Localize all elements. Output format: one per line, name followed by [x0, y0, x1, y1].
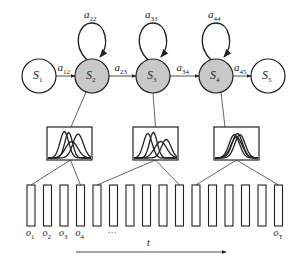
- hmm-diagram: o1o2o3o4oT…ta22a33a44a12a23a34a45S1S2S3S…: [0, 0, 299, 261]
- state-to-emission-link: [153, 93, 156, 127]
- emission-to-observation-link: [156, 160, 180, 185]
- transition-label-a45: a45: [234, 62, 247, 76]
- state-to-emission-link: [221, 92, 225, 127]
- state-label-S3-subscript: 3: [153, 76, 157, 84]
- transition-label-a45-subscript: 45: [240, 68, 247, 76]
- self-loop-arrow-S4: [202, 23, 229, 60]
- state-label-S4-subscript: 4: [216, 76, 220, 84]
- observation-label-4-subscript: 4: [81, 233, 85, 241]
- transition-label-a12-subscript: 12: [63, 68, 70, 76]
- observation-label-1: o1: [26, 228, 35, 241]
- observation-label-2: o2: [43, 228, 52, 241]
- observation-frame: [209, 185, 217, 226]
- self-loops: [78, 23, 229, 60]
- observation-frame: [93, 185, 101, 226]
- observation-ellipsis: …: [108, 226, 117, 235]
- time-axis-label: t: [147, 238, 150, 248]
- self-loop-arrow-S3: [139, 23, 166, 60]
- emission-to-observation-link: [196, 160, 237, 185]
- emission-distribution-S4: [214, 127, 259, 160]
- observation-label-T: oT: [274, 228, 283, 241]
- observation-frame: [60, 185, 68, 226]
- observation-frame: [27, 185, 35, 226]
- emission-distribution-S3: [133, 127, 178, 160]
- observation-frame: [225, 185, 233, 226]
- transition-label-a12: a12: [58, 62, 71, 76]
- transition-label-a23: a23: [115, 62, 128, 76]
- self-loop-label-a33: a33: [145, 9, 158, 23]
- state-label-S2: S2: [86, 69, 96, 84]
- observation-frame: [77, 185, 85, 226]
- self-loop-arrow-S2: [78, 23, 105, 60]
- emission-to-observation-link: [97, 160, 156, 185]
- observation-frame: [242, 185, 250, 226]
- emission-to-observation-link: [31, 160, 71, 185]
- observation-frame: [258, 185, 266, 226]
- observation-label-3: o3: [59, 228, 68, 241]
- observation-frame: [192, 185, 200, 226]
- state-label-S3: S3: [147, 69, 157, 84]
- observation-frame: [126, 185, 134, 226]
- self-loop-label-a44: a44: [208, 9, 221, 23]
- emission-box-frame: [214, 127, 259, 160]
- state-label-S5-subscript: 5: [268, 76, 272, 84]
- observation-frame: [44, 185, 52, 226]
- state-label-S2-subscript: 2: [92, 76, 96, 84]
- observation-frame: [159, 185, 167, 226]
- self-loop-label-a22-subscript: 22: [90, 15, 97, 23]
- observation-frame: [143, 185, 151, 226]
- emission-to-observation-link: [237, 160, 279, 185]
- transition-label-a34-subscript: 34: [182, 68, 189, 76]
- emission-distribution-S2: [47, 127, 92, 160]
- observation-label-3-subscript: 3: [64, 233, 68, 241]
- emission-boxes: [47, 127, 259, 160]
- state-to-emission-link: [71, 92, 86, 127]
- state-label-S1: S1: [33, 69, 43, 84]
- emission-to-observation-link: [71, 160, 81, 185]
- self-loop-label-a44-subscript: 44: [214, 15, 221, 23]
- transition-label-a23-subscript: 23: [120, 68, 127, 76]
- observation-label-4: o4: [76, 228, 85, 241]
- state-label-S1-subscript: 1: [39, 76, 43, 84]
- observation-label-2-subscript: 2: [48, 233, 52, 241]
- state-label-S5: S5: [262, 69, 272, 84]
- observation-frame: [176, 185, 184, 226]
- self-loop-label-a33-subscript: 33: [151, 15, 158, 23]
- observation-frame: [110, 185, 118, 226]
- hmm-diagram-canvas: [0, 0, 299, 261]
- observation-frame: [275, 185, 283, 226]
- self-loop-label-a22: a22: [84, 9, 97, 23]
- state-label-S4: S4: [210, 69, 220, 84]
- observation-label-1-subscript: 1: [31, 233, 35, 241]
- observation-label-T-subscript: T: [279, 233, 283, 241]
- observation-sequence: [27, 185, 283, 226]
- transition-label-a34: a34: [177, 62, 190, 76]
